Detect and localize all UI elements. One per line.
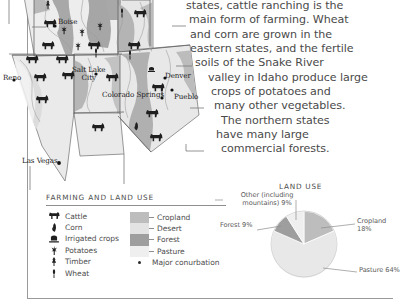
legend-item-corn: Corn: [46, 222, 130, 233]
body-text-line: The northern states: [186, 114, 392, 128]
legend-label: Pasture: [154, 247, 185, 256]
legend-symbol-column: Cattle Corn Irrigated crops Potatoes: [46, 211, 130, 279]
pie-label-other: Other (including mountains) 9%: [235, 192, 299, 207]
map-legend: FARMING AND LAND USE Cattle Corn I: [46, 193, 236, 279]
corn-icon: [46, 223, 62, 232]
legend-item-timber: Timber: [46, 256, 130, 267]
city-label-salt-lake-city: Salt Lake City: [72, 66, 105, 81]
legend-label: Cattle: [62, 212, 87, 221]
body-text-paragraph: states, cattle ranching is the main form…: [186, 0, 392, 157]
swatch-cropland: [130, 212, 149, 223]
legend-label: Wheat: [62, 269, 89, 278]
potatoes-icon: [46, 246, 62, 255]
land-use-pie-chart: LAND USE Other (includin: [215, 182, 394, 292]
city-label-boise: Boise: [58, 18, 77, 26]
body-text-line: crops of potatoes and: [186, 85, 392, 99]
swatch-desert: [130, 223, 149, 234]
swatch-forest: [130, 234, 149, 245]
city-label-line: City: [82, 73, 96, 82]
body-text-line: and corn are grown in the: [186, 28, 392, 42]
legend-item-wheat: Wheat: [46, 267, 130, 278]
body-text-line: commercial forests.: [186, 142, 392, 156]
pie-label-pasture: Pasture 64%: [359, 267, 400, 275]
body-text-line: main form of farming. Wheat: [186, 13, 392, 27]
city-label-pueblo: Pueblo: [174, 93, 198, 101]
body-text-line: valley in Idaho produce large: [186, 71, 392, 85]
body-text-line: soils of the Snake River: [186, 56, 392, 70]
legend-label: Major conurbation: [149, 258, 219, 267]
cattle-icon: [46, 212, 62, 220]
legend-label: Timber: [62, 257, 91, 266]
body-text-line: have many large: [186, 128, 392, 142]
western-states-farming-map: Boise Reno Salt Lake City Colorado Sprin…: [0, 0, 212, 194]
legend-title: FARMING AND LAND USE: [46, 193, 236, 205]
body-text-line: eastern states, and the fertile: [186, 42, 392, 56]
wheat-icon: [46, 269, 62, 278]
legend-label: Desert: [154, 224, 182, 233]
legend-label: Corn: [62, 223, 82, 232]
pie-label-cropland: Cropland 18%: [357, 218, 386, 233]
legend-item-cattle: Cattle: [46, 211, 130, 222]
swatch-pasture: [130, 246, 149, 257]
body-text-line: many other vegetables.: [186, 99, 392, 113]
city-label-reno: Reno: [3, 74, 21, 82]
pie-label-line: mountains) 9%: [242, 199, 291, 207]
pie-label-forest: Forest 9%: [220, 222, 252, 230]
city-label-las-vegas: Las Vegas: [22, 157, 58, 165]
pie-slices: [271, 211, 337, 278]
city-label-denver: Denver: [165, 72, 191, 80]
legend-label: Cropland: [154, 213, 190, 222]
irrigated-crops-icon: [46, 235, 62, 243]
legend-label: Potatoes: [62, 246, 97, 255]
body-text-line: states, cattle ranching is the: [186, 0, 392, 13]
legend-item-irrigated-crops: Irrigated crops: [46, 233, 130, 244]
legend-swatch-stack: [130, 212, 149, 258]
legend-item-major-conurbation: Major conurbation: [130, 257, 219, 268]
pie-label-line: 18%: [357, 225, 372, 233]
legend-divider: [46, 205, 226, 206]
legend-item-potatoes: Potatoes: [46, 245, 130, 256]
timber-icon: [46, 257, 62, 266]
major-conurbation-dot-icon: [130, 261, 149, 264]
legend-label: Forest: [154, 235, 180, 244]
city-label-colorado-springs: Colorado Springs: [102, 91, 164, 99]
legend-label: Irrigated crops: [62, 234, 119, 243]
